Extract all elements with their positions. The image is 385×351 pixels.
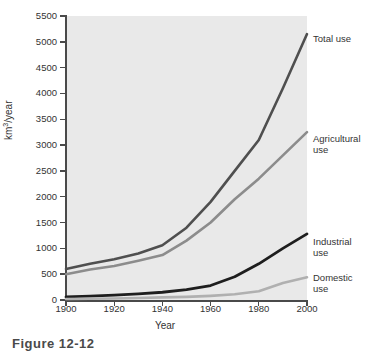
data-series-layer — [66, 16, 307, 300]
y-tick-label: 4000 — [36, 88, 57, 98]
x-tick-label: 1940 — [139, 304, 185, 314]
x-tick-label: 1980 — [236, 304, 282, 314]
x-axis-title: Year — [0, 320, 330, 331]
x-tick-label: 1900 — [43, 304, 89, 314]
x-axis-title-text: Year — [155, 320, 175, 331]
y-tick-label: 5000 — [36, 37, 57, 47]
y-axis-title: km3/year — [2, 101, 14, 140]
y-tick-label: 2500 — [36, 166, 57, 176]
x-tick-label: 2000 — [284, 304, 330, 314]
legend-label-domestic-use: Domestic use — [313, 272, 353, 294]
x-tick-label: 1960 — [188, 304, 234, 314]
figure-caption: Figure 12-12 — [12, 336, 95, 351]
y-tick-label: 3500 — [36, 114, 57, 124]
y-tick-label: 5500 — [36, 11, 57, 21]
legend-label-industrial-use: Industrial use — [313, 236, 352, 258]
legend-label-agricultural-use: Agricultural use — [313, 133, 361, 155]
series-line-total-use — [66, 34, 307, 269]
legend-label-total-use: Total use — [313, 33, 351, 44]
y-tick-label: 4500 — [36, 63, 57, 73]
x-tick-label: 1920 — [91, 304, 137, 314]
y-tick-label: 500 — [41, 269, 57, 279]
series-line-agricultural-use — [66, 132, 307, 274]
x-axis-line — [65, 300, 308, 302]
y-axis-title-base: km — [3, 127, 14, 140]
y-tick-label: 1500 — [36, 218, 57, 228]
y-tick-label: 1000 — [36, 243, 57, 253]
y-axis-title-superscript: 3 — [2, 123, 9, 127]
y-tick-label: 2000 — [36, 192, 57, 202]
y-axis-title-tail: /year — [3, 101, 14, 123]
y-tick-label: 3000 — [36, 140, 57, 150]
